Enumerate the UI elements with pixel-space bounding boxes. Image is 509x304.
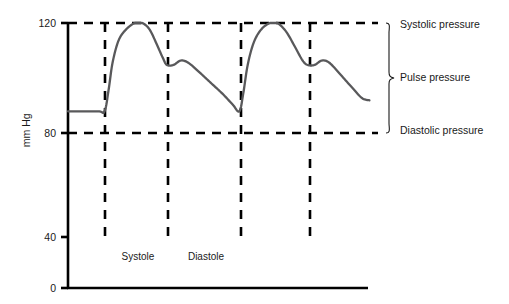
phase-label-systole: Systole bbox=[107, 252, 169, 262]
annotation-diastolic-pressure: Diastolic pressure bbox=[400, 125, 483, 136]
plot-area bbox=[0, 0, 509, 304]
pressure-range-brace bbox=[386, 23, 394, 133]
pressure-waveform-curve bbox=[68, 23, 369, 113]
y-tick-label-120: 120 bbox=[12, 18, 56, 29]
blood-pressure-waveform-figure: 120 80 40 0 mm Hg Systole Diastole Systo… bbox=[0, 0, 509, 304]
annotation-pulse-pressure: Pulse pressure bbox=[400, 72, 470, 83]
y-tick-label-0: 0 bbox=[12, 283, 56, 294]
y-tick-label-80: 80 bbox=[12, 128, 56, 139]
y-tick-label-40: 40 bbox=[12, 232, 56, 243]
annotation-systolic-pressure: Systolic pressure bbox=[400, 19, 480, 30]
y-axis-title: mm Hg bbox=[21, 100, 32, 160]
phase-label-diastole: Diastole bbox=[175, 252, 237, 262]
